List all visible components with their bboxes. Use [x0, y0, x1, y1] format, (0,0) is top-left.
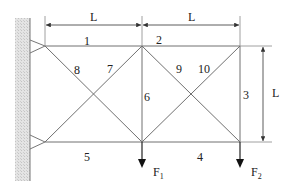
load-label-f2: F2: [251, 166, 262, 181]
member-label-4: 4: [197, 151, 203, 163]
member-label-2: 2: [156, 34, 162, 46]
dimension-label-top-right: L: [188, 11, 195, 23]
member-label-7: 7: [107, 63, 113, 75]
pin-support-bottom: [30, 135, 45, 149]
member-label-9: 9: [176, 63, 182, 75]
member-label-6: 6: [144, 91, 150, 103]
load-arrow-f1: [138, 142, 146, 168]
member-label-10: 10: [198, 63, 210, 75]
member-label-8: 8: [74, 64, 80, 76]
wall-support: [15, 18, 30, 181]
member-label-5: 5: [84, 151, 90, 163]
load-label-f1: F1: [153, 166, 164, 181]
member-label-3: 3: [243, 89, 249, 101]
load-arrow-f2: [236, 142, 244, 168]
dimension-label-top-left: L: [90, 11, 97, 23]
member-label-1: 1: [84, 35, 90, 47]
dimension-label-right: L: [272, 87, 279, 99]
pin-support-top: [30, 40, 45, 53]
